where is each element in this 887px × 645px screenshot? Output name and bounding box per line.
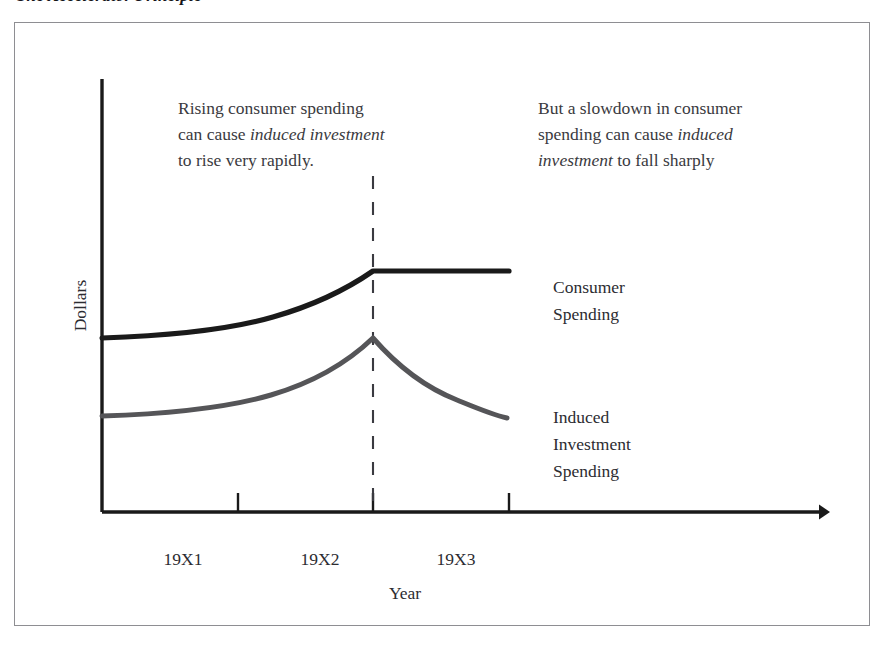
annotation-right-line-1: But a slowdown in consumer <box>538 95 742 121</box>
x-tick-label-19x3: 19X3 <box>416 549 496 570</box>
annotation-left-line-1: Rising consumer spending <box>178 95 385 121</box>
annotation-right: But a slowdown in consumer spending can … <box>538 95 742 173</box>
series-label-induced-investment: Induced Investment Spending <box>553 404 631 485</box>
x-axis-arrowhead <box>819 505 830 520</box>
series-label-induced-line-2: Investment <box>553 431 631 458</box>
series-label-consumer-line-2: Spending <box>553 301 625 328</box>
annotation-left-line-2-emphasis: induced investment <box>250 124 385 144</box>
annotation-right-line-2-emphasis: induced <box>677 124 732 144</box>
induced-investment-curve <box>102 338 507 418</box>
annotation-left-line-3: to rise very rapidly. <box>178 147 385 173</box>
annotation-right-line-2: spending can cause induced <box>538 121 742 147</box>
series-label-induced-line-3: Spending <box>553 458 631 485</box>
x-tick-label-19x1: 19X1 <box>143 549 223 570</box>
annotation-left-line-2-text: can cause <box>178 124 250 144</box>
annotation-right-line-2-text: spending can cause <box>538 124 677 144</box>
series-label-consumer-line-1: Consumer <box>553 274 625 301</box>
figure-caption-text: The Accelerator Principle <box>16 0 202 6</box>
figure-frame: Rising consumer spending can cause induc… <box>14 22 870 626</box>
annotation-right-line-3-emphasis: investment <box>538 150 613 170</box>
x-tick-label-19x2: 19X2 <box>280 549 360 570</box>
x-axis-label: Year <box>360 583 450 604</box>
annotation-left-line-2: can cause induced investment <box>178 121 385 147</box>
figure-root: The Accelerator Principle Rising consume… <box>0 0 887 645</box>
figure-caption-strip: The Accelerator Principle <box>0 0 887 13</box>
annotation-right-line-3: investment to fall sharply <box>538 147 742 173</box>
annotation-right-line-3-text: to fall sharply <box>613 150 715 170</box>
y-axis-label: Dollars <box>70 261 91 351</box>
series-label-consumer-spending: Consumer Spending <box>553 274 625 328</box>
annotation-left: Rising consumer spending can cause induc… <box>178 95 385 173</box>
series-label-induced-line-1: Induced <box>553 404 631 431</box>
consumer-spending-curve <box>102 271 509 338</box>
